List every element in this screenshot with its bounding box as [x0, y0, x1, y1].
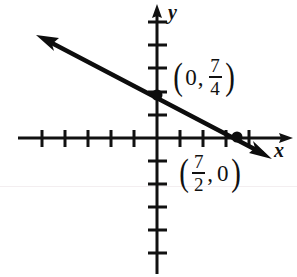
y-axis-label: y [168, 2, 177, 22]
fraction-seven-fourths: 7 4 [207, 56, 224, 99]
comma: , [207, 162, 216, 185]
y-intercept-x-value: 0 [184, 66, 198, 89]
x-intercept-dot [232, 132, 243, 143]
fraction-denominator: 4 [210, 79, 220, 98]
open-paren: ( [179, 158, 189, 188]
x-axis-label: x [274, 140, 284, 160]
open-paren: ( [173, 62, 183, 92]
y-intercept-dot [152, 90, 163, 101]
x-intercept-y-value: 0 [216, 162, 230, 185]
x-intercept-label: ( 7 2 , 0 ) [178, 152, 242, 195]
graph-figure [0, 0, 297, 277]
close-paren: ) [231, 158, 241, 188]
y-intercept-label: ( 0 , 7 4 ) [172, 56, 236, 99]
fraction-seven-halves: 7 2 [190, 152, 207, 195]
fraction-numerator: 7 [210, 56, 220, 75]
close-paren: ) [225, 62, 235, 92]
fraction-denominator: 2 [194, 175, 204, 194]
fraction-numerator: 7 [194, 152, 204, 171]
comma: , [198, 66, 207, 89]
